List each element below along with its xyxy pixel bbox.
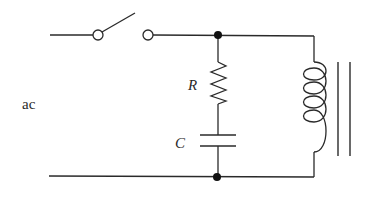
junction-top <box>214 31 222 39</box>
inductor-core <box>338 62 350 156</box>
wire-bottom <box>49 176 314 177</box>
inductor <box>304 62 327 152</box>
label-ac: ac <box>22 96 36 112</box>
junction-bottom <box>213 173 221 181</box>
label-c: C <box>175 135 186 151</box>
label-r: R <box>187 77 197 93</box>
switch <box>93 13 153 40</box>
capacitor <box>200 135 236 146</box>
wire-top-right <box>153 35 314 36</box>
circuit-diagram: ac R C <box>0 0 367 197</box>
resistor <box>211 62 226 104</box>
